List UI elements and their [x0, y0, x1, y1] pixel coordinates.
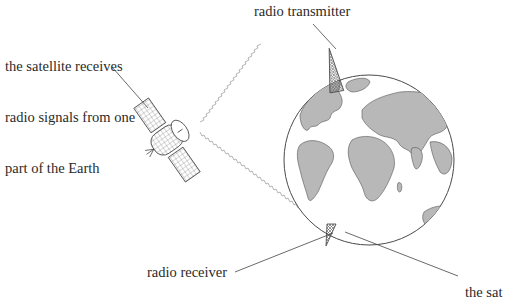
earth-globe: [284, 75, 454, 245]
label-satellite-sends-line-1: the sat: [465, 284, 506, 297]
leader-line-transmitter: [313, 24, 336, 49]
radio-transmitter-icon: [322, 47, 343, 93]
label-satellite-sends: the sat send th anothe: [465, 250, 506, 297]
label-satellite-receives-line-3: part of the Earth: [5, 160, 135, 177]
label-satellite-receives-line-1: the satellite receives: [5, 58, 135, 75]
leader-line-receiver: [235, 233, 333, 272]
uplink-signal-wave: [200, 44, 261, 122]
label-radio-transmitter: radio transmitter: [254, 3, 350, 20]
label-satellite-receives: the satellite receives radio signals fro…: [5, 24, 135, 194]
label-radio-receiver: radio receiver: [147, 264, 227, 281]
label-satellite-receives-line-2: radio signals from one: [5, 109, 135, 126]
